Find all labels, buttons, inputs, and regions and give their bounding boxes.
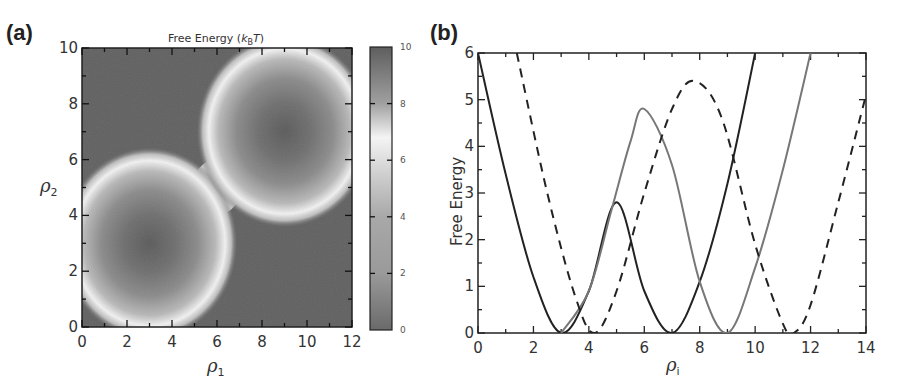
y-tick-label: 0 (68, 318, 78, 336)
x-tick-label: 6 (640, 339, 650, 357)
y-tick-label: 8 (68, 95, 78, 113)
panel-a-label: (a) (6, 20, 33, 45)
heatmap-y-axis-title: ρ2 (39, 175, 58, 199)
x-tick-label: 10 (746, 339, 765, 357)
x-tick-label: 12 (342, 333, 361, 351)
line-plot-frame (478, 53, 866, 333)
colorbar-labels: 0246810 (400, 42, 412, 335)
x-tick-label: 8 (695, 339, 705, 357)
y-tick-label: 6 (464, 44, 474, 62)
line-plot-x-axis-title: ρi (665, 354, 680, 378)
panel-a: (a) Free Energy (kBT) 024681012 0246810 … (6, 20, 412, 379)
x-tick-label: 4 (584, 339, 594, 357)
y-tick-label: 4 (68, 206, 78, 224)
heatmap-x-axis-title: ρ1 (206, 355, 225, 379)
colorbar-label: 0 (400, 325, 406, 335)
y-tick-label: 0 (464, 324, 474, 342)
figure: (a) Free Energy (kBT) 024681012 0246810 … (0, 0, 903, 389)
y-tick-label: 6 (68, 151, 78, 169)
x-tick-label: 8 (257, 333, 267, 351)
colorbar-label: 2 (400, 268, 406, 278)
x-tick-label: 0 (473, 339, 483, 357)
panel-b-label: (b) (430, 20, 458, 45)
x-tick-label: 2 (122, 333, 132, 351)
y-tick-label: 10 (59, 39, 78, 57)
x-tick-label: 10 (297, 333, 316, 351)
heatmap-x-tick-labels: 024681012 (77, 333, 361, 351)
colorbar-label: 10 (400, 42, 412, 52)
y-tick-label: 4 (464, 137, 474, 155)
x-tick-label: 2 (529, 339, 539, 357)
x-tick-label: 12 (801, 339, 820, 357)
y-tick-label: 2 (68, 262, 78, 280)
colorbar-label: 8 (400, 99, 406, 109)
x-tick-label: 4 (167, 333, 177, 351)
y-tick-label: 5 (464, 91, 474, 109)
x-tick-label: 6 (212, 333, 222, 351)
x-tick-label: 14 (856, 339, 875, 357)
colorbar-label: 6 (400, 155, 406, 165)
panel-b: (b) 02468101214 0123456 Free Energy ρi (430, 20, 876, 378)
colorbar-label: 4 (400, 212, 406, 222)
x-tick-label: 0 (77, 333, 87, 351)
heatmap-area (62, 35, 373, 339)
heatmap-y-tick-labels: 0246810 (59, 39, 78, 336)
heatmap-title: Free Energy (kBT) (168, 32, 264, 47)
y-tick-label: 1 (464, 277, 474, 295)
colorbar (370, 47, 392, 330)
line-plot-y-axis-title: Free Energy (448, 157, 466, 246)
